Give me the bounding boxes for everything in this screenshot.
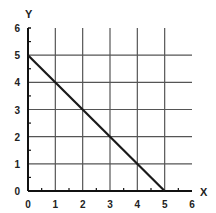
labels: X Y [25,8,208,198]
grid [28,28,192,191]
x-tick-label: 0 [25,199,31,210]
x-tick-label: 3 [107,199,113,210]
y-tick-label: 3 [14,105,20,116]
x-tick-label: 4 [135,199,141,210]
y-tick-label: 6 [14,23,20,34]
ticks: 01234560123456 [14,23,195,210]
y-tick-label: 2 [14,132,20,143]
y-tick-label: 4 [14,77,20,88]
y-tick-label: 5 [14,50,20,61]
series-line [28,55,165,191]
x-tick-label: 2 [80,199,86,210]
x-axis-label: X [200,186,208,198]
series [28,55,165,191]
chart: 01234560123456 X Y [0,0,216,213]
y-tick-label: 0 [14,186,20,197]
y-axis-label: Y [25,8,33,20]
y-tick-label: 1 [14,159,20,170]
x-tick-label: 5 [162,199,168,210]
x-tick-label: 1 [53,199,59,210]
x-tick-label: 6 [189,199,195,210]
